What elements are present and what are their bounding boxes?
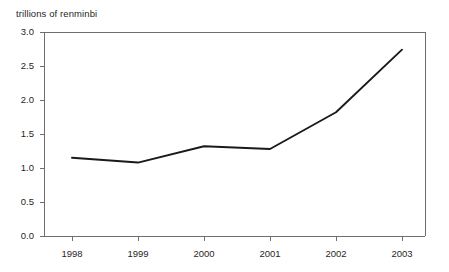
- data-series-line: [72, 50, 402, 163]
- x-axis-tick-label: 1998: [50, 249, 94, 259]
- x-axis-tick-label: 2003: [380, 249, 424, 259]
- y-axis-tick-label: 0.5: [4, 197, 34, 207]
- y-axis-tick-label: 0.0: [4, 231, 34, 241]
- y-axis-tick-label: 1.0: [4, 163, 34, 173]
- axis-ticks: [40, 32, 402, 241]
- y-axis-tick-label: 2.0: [4, 95, 34, 105]
- x-axis-tick-label: 2002: [314, 249, 358, 259]
- x-axis-tick-label: 2001: [248, 249, 292, 259]
- x-axis-tick-label: 1999: [116, 249, 160, 259]
- line-chart: trillions of renminbi 0.00.51.01.52.02.5…: [0, 0, 449, 272]
- y-axis-tick-label: 2.5: [4, 61, 34, 71]
- plot-frame: [44, 32, 425, 236]
- y-axis-tick-label: 1.5: [4, 129, 34, 139]
- x-axis-tick-label: 2000: [182, 249, 226, 259]
- y-axis-tick-label: 3.0: [4, 27, 34, 37]
- plot-area: [0, 0, 449, 272]
